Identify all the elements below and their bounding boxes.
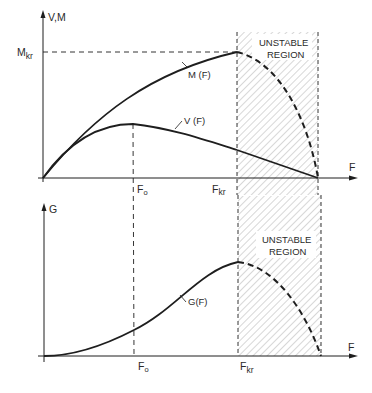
bottom-x-axis-arrow-icon [349,354,358,359]
fo-reference-line [133,124,134,356]
bottom-x-axis-label: F [348,341,354,353]
x-axis-arrow-icon [349,176,358,181]
bottom-fkr-label: Fkr [240,360,254,375]
curve-g [44,262,238,356]
curve-m-label: M (F) [188,69,211,80]
top-y-axis-label: V,M [48,11,66,23]
curve-v-label: V (F) [184,115,205,126]
bottom-fo-label: Fo [138,360,149,374]
mkr-label: Mkr [17,46,33,61]
top-fo-label: Fo [137,183,148,197]
curve-g-label: G(F) [188,296,208,307]
curve-v [43,124,237,178]
top-region-label-line1: UNSTABLE [259,37,308,48]
g-axis-arrow-icon [42,203,47,211]
stability-diagram: V,M F Mkr Fo Fkr M (F) V (F) UNSTABLE RE… [0,0,372,393]
y-axis-arrow-icon [41,10,46,18]
bottom-region-label-line2: REGION [269,246,307,257]
top-fkr-label: Fkr [212,183,226,197]
bottom-region-label-line1: UNSTABLE [262,234,311,245]
top-region-label-line2: REGION [267,49,305,60]
bottom-y-axis-label: G [49,203,57,215]
top-x-axis-label: F [349,161,355,173]
bottom-unstable-region [238,195,321,356]
bottom-panel: G F Fo Fkr G(F) UNSTABLE REGION [38,195,358,375]
